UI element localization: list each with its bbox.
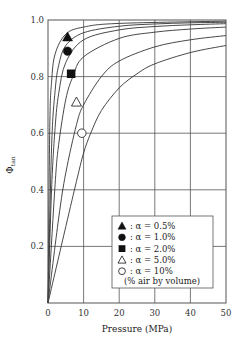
open-circle-marker	[78, 129, 87, 138]
filled-square-marker	[67, 70, 76, 79]
y-axis-label-sub: tan	[9, 156, 16, 166]
y-tick-label: 1.0	[30, 15, 44, 25]
filled-circle-marker	[119, 234, 126, 241]
legend-note: (% air by volume)	[124, 276, 200, 286]
x-tick-label: 40	[185, 308, 196, 318]
x-axis-label: Pressure (MPa)	[102, 324, 172, 334]
legend-entry-label: : α = 2.0%	[130, 244, 175, 254]
y-tick-label: 0.8	[30, 72, 44, 82]
open-circle-marker	[119, 268, 126, 275]
legend-entry-label: : α = 0.5%	[130, 221, 175, 231]
svg-text:Φtan: Φtan	[5, 156, 16, 173]
x-tick-label: 30	[149, 308, 160, 318]
y-tick-label: 0.6	[30, 128, 44, 138]
legend-entry-label: : α = 1.0%	[130, 232, 175, 242]
y-axis-label: Φtan	[5, 156, 16, 173]
chart: 0.20.40.60.81.0 01020304050 Pressure (MP…	[0, 0, 242, 352]
y-axis-label-main: Φ	[5, 166, 15, 173]
y-tick-label: 0.2	[30, 241, 44, 251]
legend: : α = 0.5%: α = 1.0%: α = 2.0%: α = 5.0%…	[112, 216, 213, 288]
filled-square-marker	[119, 245, 126, 252]
x-tick-label: 50	[221, 308, 232, 318]
legend-entry-label: : α = 10%	[130, 266, 173, 276]
legend-entry-label: : α = 5.0%	[130, 255, 175, 265]
x-tick-label: 0	[45, 308, 50, 318]
x-tick-labels: 01020304050	[45, 308, 231, 318]
x-tick-label: 20	[114, 308, 125, 318]
y-tick-label: 0.4	[30, 185, 44, 195]
x-tick-label: 10	[78, 308, 89, 318]
y-tick-labels: 0.20.40.60.81.0	[30, 15, 44, 251]
open-triangle-marker	[71, 97, 81, 106]
filled-circle-marker	[63, 47, 72, 56]
